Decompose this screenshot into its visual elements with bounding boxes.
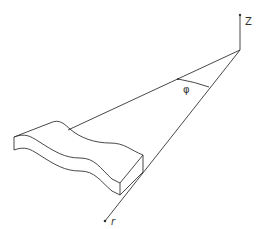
z-axis-label: Z bbox=[245, 16, 252, 27]
diagram-canvas: Z r φ bbox=[0, 0, 265, 229]
r-ray-line bbox=[105, 50, 240, 221]
phi-arc-dot bbox=[177, 78, 179, 80]
slab-right-bottom-edge bbox=[120, 172, 143, 195]
r-label: r bbox=[111, 216, 116, 227]
r-endpoint-dot bbox=[104, 220, 107, 223]
wavy-slab bbox=[14, 121, 143, 195]
slab-top-front-edge bbox=[14, 135, 143, 183]
z-axis-tip bbox=[239, 14, 241, 16]
upper-ray-line bbox=[68, 50, 240, 130]
phi-label: φ bbox=[183, 84, 190, 95]
